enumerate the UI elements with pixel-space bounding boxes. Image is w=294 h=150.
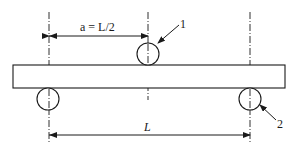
left-support-roller <box>37 88 59 110</box>
top-dimension-label: a = L/2 <box>80 20 115 34</box>
callout-1-leader <box>158 25 179 43</box>
three-point-bending-diagram: a = L/2 L 1 2 <box>0 0 294 150</box>
beam-specimen <box>13 65 285 88</box>
callout-1-label: 1 <box>180 17 186 31</box>
span-label: L <box>143 120 151 134</box>
callout-2-leader <box>260 105 276 120</box>
callout-2-label: 2 <box>277 117 283 131</box>
diagram-canvas: a = L/2 L 1 2 <box>0 0 294 150</box>
